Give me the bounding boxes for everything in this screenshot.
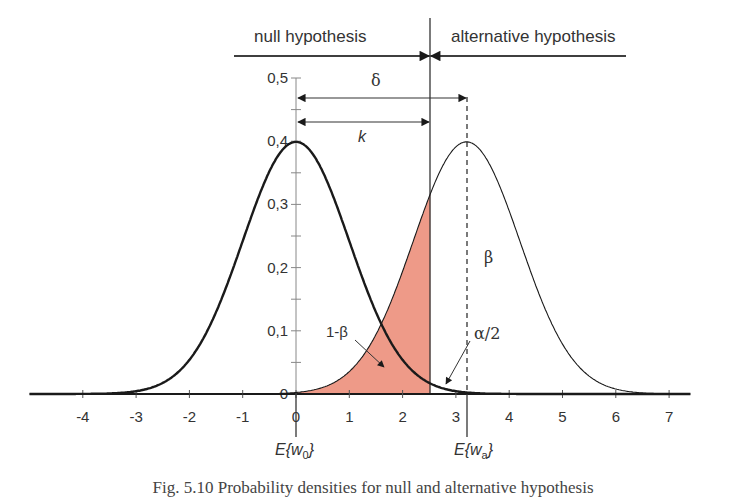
null-hypothesis-curve — [30, 142, 691, 394]
x-tick-label: 5 — [558, 408, 566, 425]
x-tick-label: 2 — [398, 408, 406, 425]
x-tick-label: 3 — [452, 408, 460, 425]
beta-label: β — [484, 248, 493, 267]
delta-label: δ — [371, 71, 381, 90]
one-minus-beta-label: 1-β — [326, 323, 348, 340]
y-tick-label: 0,3 — [267, 195, 288, 212]
x-axis: -4-3-2-101234567 — [32, 390, 690, 425]
x-tick-label: -4 — [76, 408, 89, 425]
header-alternative-hypothesis: alternative hypothesis — [451, 27, 615, 46]
y-tick-label: 0,1 — [267, 322, 288, 339]
x-tick-label: 4 — [505, 408, 513, 425]
e-wa-label: E{wa} — [454, 441, 494, 461]
x-tick-label: 1 — [345, 408, 353, 425]
alpha-half-label: α/2 — [474, 324, 500, 343]
x-tick-label: -2 — [183, 408, 196, 425]
x-tick-label: 6 — [612, 408, 620, 425]
figure-caption: Fig. 5.10 Probability densities for null… — [0, 478, 746, 498]
y-tick-label: 0,5 — [267, 69, 288, 86]
e-w0-label: E{w0} — [275, 441, 315, 461]
x-tick-label: -1 — [236, 408, 249, 425]
header-null-hypothesis: null hypothesis — [254, 27, 366, 46]
y-axis: 00,10,20,30,40,5 — [267, 69, 301, 402]
y-tick-label: 0,2 — [267, 259, 288, 276]
x-tick-label: 7 — [665, 408, 673, 425]
x-tick-label: -3 — [129, 408, 142, 425]
k-label: k — [358, 128, 367, 145]
